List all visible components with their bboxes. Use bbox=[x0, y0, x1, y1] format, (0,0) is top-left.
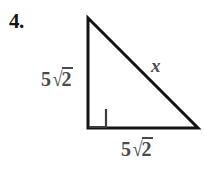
right-triangle-outline bbox=[88, 18, 198, 128]
left-leg-length-label: 5√2 bbox=[41, 67, 73, 90]
triangle-drawing bbox=[0, 0, 204, 179]
bottom-leg-coefficient: 5 bbox=[121, 138, 131, 160]
left-leg-radicand: 2 bbox=[62, 67, 73, 89]
bottom-leg-radicand: 2 bbox=[142, 137, 153, 159]
bottom-leg-length-label: 5√2 bbox=[121, 137, 153, 160]
right-angle-marker-icon bbox=[89, 109, 106, 127]
geometry-figure: 4. 5√2 5√2 x bbox=[0, 0, 204, 179]
hypotenuse-length-label: x bbox=[151, 56, 161, 75]
left-leg-coefficient: 5 bbox=[41, 68, 51, 90]
